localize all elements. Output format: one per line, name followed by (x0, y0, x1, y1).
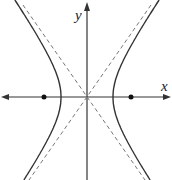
asymptote-positive-slope (29, 5, 151, 180)
x-axis-label: x (161, 79, 168, 94)
right-focus-point (129, 95, 134, 100)
y-axis (84, 2, 90, 180)
asymptote-negative-slope (23, 5, 145, 180)
left-branch (15, 0, 61, 180)
x-axis-left-arrow-icon (1, 94, 9, 100)
y-axis-label: y (75, 8, 82, 23)
hyperbola-diagram (0, 0, 172, 180)
right-branch (113, 0, 159, 180)
left-focus-point (42, 95, 47, 100)
y-axis-up-arrow-icon (84, 2, 90, 11)
x-axis-right-arrow-icon (163, 94, 171, 100)
